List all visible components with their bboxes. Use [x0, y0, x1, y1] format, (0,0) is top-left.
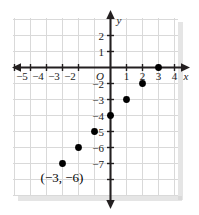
plot-drop-shadow [18, 196, 182, 201]
x-tick-label: 1 [124, 70, 130, 82]
y-tick-label: −6 [92, 142, 104, 154]
y-tick-label: 2 [99, 30, 105, 42]
data-point [59, 160, 66, 167]
data-point [139, 80, 146, 87]
data-point [75, 144, 82, 151]
y-tick-label: −4 [92, 110, 104, 122]
y-axis-label: y [116, 14, 122, 26]
x-axis-label: x [183, 70, 189, 82]
data-point [155, 64, 162, 71]
x-tick-label: 3 [156, 70, 162, 82]
x-tick-label: −5 [16, 70, 28, 82]
y-tick-label: 1 [99, 46, 105, 58]
data-point [107, 112, 114, 119]
y-tick-label: −7 [92, 158, 104, 170]
coordinate-plane-figure: −5 −4 −3 −2 1 2 3 4 2 1 −2 −3 −4 −5 −6 −… [0, 0, 199, 215]
x-tick-label: −4 [32, 70, 44, 82]
origin-label: O [96, 70, 104, 82]
x-tick-label: −2 [64, 70, 76, 82]
x-tick-label: 4 [172, 70, 178, 82]
data-point [91, 128, 98, 135]
point-annotation: (−3, −6) [41, 170, 84, 185]
x-tick-label: −3 [48, 70, 60, 82]
data-point [123, 96, 130, 103]
plot-drop-shadow-right [178, 22, 183, 200]
y-tick-label: −3 [92, 94, 104, 106]
